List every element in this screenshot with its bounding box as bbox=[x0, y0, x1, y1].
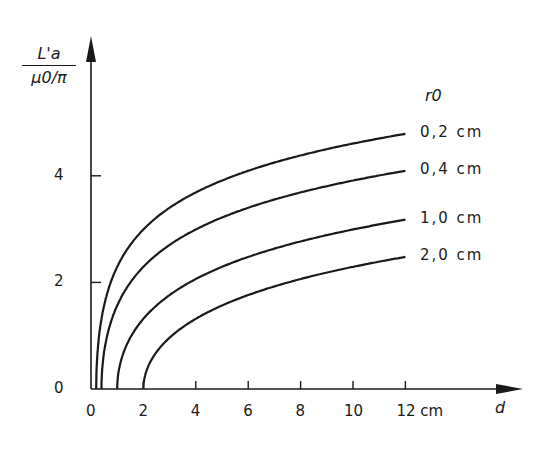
x-tick-label: 12 cm bbox=[396, 402, 443, 420]
curve-r0-0_2 bbox=[96, 134, 405, 389]
y-tick-label: 4 bbox=[54, 166, 64, 184]
curve-r0-0_4 bbox=[102, 171, 406, 389]
x-tick-label: 8 bbox=[296, 402, 306, 420]
x-axis-arrow-icon bbox=[496, 384, 523, 394]
curves bbox=[96, 134, 405, 389]
x-tick-label: 4 bbox=[191, 402, 201, 420]
x-tick-label: 10 bbox=[344, 402, 363, 420]
y-axis-arrow-icon bbox=[86, 36, 96, 62]
y-axis-label-denominator: μ0/π bbox=[22, 66, 76, 87]
x-axis-label: d bbox=[495, 398, 505, 417]
legend-item: 2,0 cm bbox=[420, 246, 483, 264]
y-axis-label: L'a μ0/π bbox=[22, 44, 76, 87]
x-tick-label: 2 bbox=[138, 402, 148, 420]
y-axis-label-numerator: L'a bbox=[22, 44, 76, 66]
x-tick-label: 0 bbox=[86, 402, 96, 420]
curve-r0-2 bbox=[143, 257, 405, 389]
legend-item: 1,0 cm bbox=[420, 209, 483, 227]
legend-item: 0,2 cm bbox=[420, 123, 483, 141]
chart-canvas bbox=[0, 0, 548, 461]
y-tick-label: 2 bbox=[54, 272, 64, 290]
curve-r0-1 bbox=[117, 220, 405, 389]
x-tick-label: 6 bbox=[243, 402, 253, 420]
y-tick-label: 0 bbox=[54, 379, 64, 397]
legend-title: r0 bbox=[425, 86, 442, 105]
legend-item: 0,4 cm bbox=[420, 160, 483, 178]
